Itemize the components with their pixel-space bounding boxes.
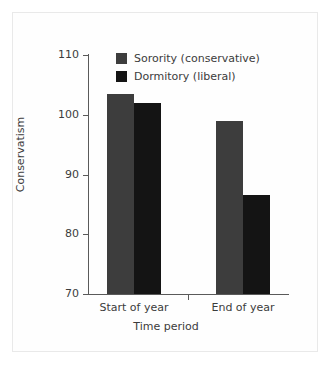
y-tick-mark [83, 55, 88, 56]
y-tick-mark [83, 234, 88, 235]
bar-sorority-1 [216, 121, 243, 294]
x-axis-title: Time period [0, 320, 332, 333]
y-axis-title: Conservatism [14, 75, 27, 235]
y-tick-mark [83, 294, 88, 295]
plot-area [89, 55, 288, 294]
legend-label: Dormitory (liberal) [134, 71, 236, 82]
legend-swatch-icon [116, 53, 127, 64]
bar-dormitory-0 [134, 103, 161, 294]
bar-sorority-0 [107, 94, 134, 294]
chart-figure: 708090100110 Start of yearEnd of year Ti… [0, 0, 332, 366]
x-tick-mark [188, 295, 189, 300]
y-tick-label: 80 [39, 228, 79, 239]
y-tick-label: 100 [39, 109, 79, 120]
y-tick-label: 110 [39, 49, 79, 60]
chart-legend: Sorority (conservative)Dormitory (libera… [116, 50, 260, 86]
y-tick-mark [83, 115, 88, 116]
x-tick-label: Start of year [74, 302, 194, 313]
legend-label: Sorority (conservative) [134, 53, 260, 64]
x-tick-label: End of year [183, 302, 303, 313]
y-tick-mark [83, 175, 88, 176]
y-tick-label: 70 [39, 288, 79, 299]
y-tick-label: 90 [39, 169, 79, 180]
legend-item: Dormitory (liberal) [116, 68, 260, 84]
legend-item: Sorority (conservative) [116, 50, 260, 66]
legend-swatch-icon [116, 71, 127, 82]
bar-dormitory-1 [243, 195, 270, 294]
